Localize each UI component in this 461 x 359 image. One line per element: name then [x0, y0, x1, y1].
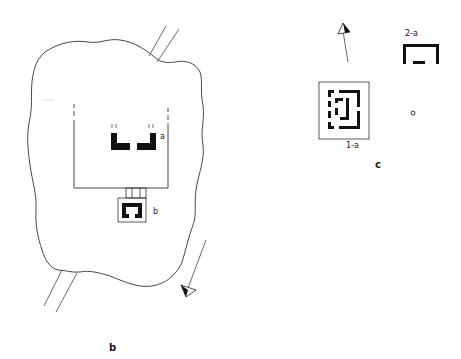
road-ne-right [157, 29, 179, 62]
structure-a [111, 124, 156, 150]
panel-c [319, 23, 439, 139]
label-structure-a: a [160, 133, 165, 141]
north-arrow-icon [338, 23, 350, 62]
site-plan-figure [0, 0, 461, 359]
panel-b [28, 26, 206, 312]
caption-panel-c: c [375, 160, 381, 170]
structure-2a [403, 44, 439, 64]
arrow-sw-icon [181, 240, 206, 297]
label-structure-b: b [153, 208, 158, 216]
road-ne-left [149, 26, 166, 56]
label-structure-1a: 1-a [346, 142, 359, 150]
circle-marker-icon [411, 111, 415, 115]
road-sw-left [44, 270, 62, 306]
caption-panel-b: b [109, 343, 116, 353]
road-sw-right [56, 273, 77, 312]
structure-b [118, 188, 146, 222]
structure-a-left-wall [111, 133, 130, 150]
label-structure-2a: 2-a [405, 30, 418, 38]
structure-a-right-wall [137, 133, 156, 150]
structure-1a [319, 82, 369, 139]
mound-outline [28, 40, 204, 287]
